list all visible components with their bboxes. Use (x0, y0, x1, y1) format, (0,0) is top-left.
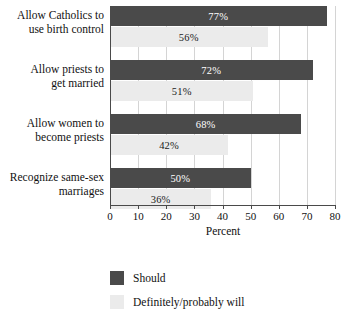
legend-swatch-should (110, 271, 124, 285)
x-tick-label-20: 20 (154, 210, 178, 222)
category-label-line: Recognize same-sex (0, 171, 104, 185)
bar-value-label: 68% (196, 119, 216, 130)
x-tick-0 (110, 205, 111, 209)
category-label: Allow women tobecome priests (0, 117, 104, 144)
bar-should: 72% (110, 60, 313, 80)
x-tick-70 (307, 205, 308, 209)
legend-item: Definitely/probably will (110, 294, 244, 309)
bar-should: 77% (110, 6, 327, 26)
legend-item: Should (110, 270, 244, 285)
category-label: Allow priests toget married (0, 63, 104, 90)
x-tick-label-0: 0 (98, 210, 122, 222)
category-label: Recognize same-sexmarriages (0, 171, 104, 198)
category-label-line: Allow Catholics to (0, 9, 104, 23)
x-tick-60 (279, 205, 280, 209)
category-label-line: get married (0, 77, 104, 91)
bar-will: 42% (110, 135, 228, 155)
bar-value-label: 56% (179, 32, 199, 43)
x-tick-80 (335, 205, 336, 209)
bar-will: 51% (110, 81, 253, 101)
bar-value-label: 51% (172, 86, 192, 97)
legend-label: Definitely/probably will (133, 296, 244, 308)
x-tick-label-10: 10 (126, 210, 150, 222)
plot-area: 77%56%72%51%68%42%50%36% (110, 6, 335, 205)
bar-should: 68% (110, 114, 301, 134)
x-tick-label-70: 70 (295, 210, 319, 222)
bar-group: 72%51% (110, 60, 335, 101)
x-tick-label-80: 80 (323, 210, 347, 222)
x-tick-label-50: 50 (239, 210, 263, 222)
x-tick-label-60: 60 (267, 210, 291, 222)
bar-value-label: 72% (201, 65, 221, 76)
chart-legend: ShouldDefinitely/probably will (110, 270, 244, 318)
category-label-line: Allow priests to (0, 63, 104, 77)
category-label-line: use birth control (0, 23, 104, 37)
bar-value-label: 42% (159, 140, 179, 151)
category-label: Allow Catholics touse birth control (0, 9, 104, 36)
y-axis-line (110, 6, 111, 205)
x-tick-10 (138, 205, 139, 209)
gridline-80 (335, 6, 336, 205)
bar-chart: 77%56%72%51%68%42%50%36% 010203040506070… (0, 0, 357, 326)
bar-value-label: 50% (170, 173, 190, 184)
bar-will: 56% (110, 27, 268, 47)
category-label-line: Allow women to (0, 117, 104, 131)
x-tick-20 (166, 205, 167, 209)
legend-swatch-will (110, 295, 124, 309)
bar-value-label: 36% (151, 194, 171, 205)
x-axis-title: Percent (110, 225, 336, 237)
category-label-line: become priests (0, 131, 104, 145)
bar-value-label: 77% (208, 11, 228, 22)
bar-group: 50%36% (110, 168, 335, 209)
x-tick-40 (223, 205, 224, 209)
bar-should: 50% (110, 168, 251, 188)
bar-will: 36% (110, 189, 211, 209)
bar-group: 77%56% (110, 6, 335, 47)
x-tick-label-30: 30 (182, 210, 206, 222)
x-tick-50 (251, 205, 252, 209)
category-label-line: marriages (0, 185, 104, 199)
x-tick-label-40: 40 (211, 210, 235, 222)
x-tick-30 (194, 205, 195, 209)
bar-group: 68%42% (110, 114, 335, 155)
legend-label: Should (133, 272, 166, 284)
